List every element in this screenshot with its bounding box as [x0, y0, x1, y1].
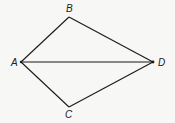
vertex-label-a: A: [10, 57, 18, 68]
kite-diagram: A B D C: [0, 0, 175, 123]
segment-bd: [69, 17, 153, 62]
vertex-label-c: C: [65, 109, 73, 120]
segment-ab: [21, 17, 69, 62]
vertex-label-b: B: [66, 3, 73, 14]
vertex-label-d: D: [158, 57, 165, 68]
vertex-a-point: [20, 61, 22, 63]
segment-ca: [21, 62, 69, 107]
segment-dc: [69, 62, 153, 107]
vertex-d-point: [152, 61, 155, 64]
